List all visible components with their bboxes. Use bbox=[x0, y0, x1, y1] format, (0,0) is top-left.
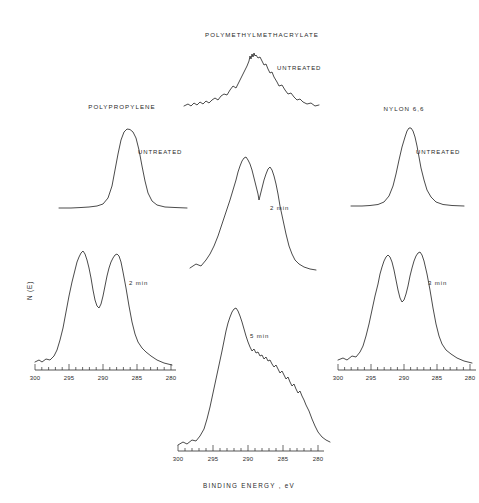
panel-pmma-2min: 2 min bbox=[188, 148, 318, 273]
x-tick-label-290-pp: 290 bbox=[98, 375, 109, 381]
trace-pmma-5min bbox=[178, 308, 330, 445]
x-tick-label-295-pmma: 295 bbox=[208, 456, 219, 462]
panel-pmma-untreated: UNTREATED bbox=[182, 50, 322, 112]
column-title-polypropylene: POLYPROPYLENE bbox=[88, 103, 156, 110]
xps-spectra-figure: POLYMETHYLMETHACRYLATE POLYPROPYLENE NYL… bbox=[0, 0, 479, 503]
x-tick-label-300-nylon: 300 bbox=[333, 375, 344, 381]
trace-polypropylene-2min bbox=[35, 251, 172, 365]
x-tick-label-280-pmma: 280 bbox=[313, 456, 324, 462]
x-tick-label-295-pp: 295 bbox=[64, 375, 75, 381]
x-tick-label-300-pp: 300 bbox=[30, 375, 41, 381]
x-tick-label-285-pp: 285 bbox=[132, 375, 143, 381]
trace-nylon66-untreated bbox=[351, 128, 464, 206]
x-tick-label-280-nylon: 280 bbox=[465, 375, 476, 381]
x-tick-label-295-nylon: 295 bbox=[366, 375, 377, 381]
column-title-polymethylmethacrylate: POLYMETHYLMETHACRYLATE bbox=[205, 31, 319, 38]
annotation-untreated-pmma: UNTREATED bbox=[277, 65, 321, 71]
column-title-nylon66: NYLON 6,6 bbox=[383, 105, 424, 112]
x-axis-ticks-nylon bbox=[338, 364, 470, 370]
panel-nylon66-untreated: UNTREATED bbox=[348, 120, 473, 215]
annotation-untreated-polypropylene: UNTREATED bbox=[138, 149, 182, 155]
x-axis-ticks-polypropylene bbox=[35, 364, 171, 370]
annotation-2min-pmma: 2 min bbox=[270, 205, 289, 211]
x-axis-ticks-pmma bbox=[178, 445, 318, 451]
annotation-2min-polypropylene: 2 min bbox=[129, 280, 148, 286]
trace-pmma-2min bbox=[190, 157, 316, 270]
trace-nylon66-3min bbox=[338, 252, 472, 363]
annotation-3min-nylon66: 3 min bbox=[428, 280, 447, 286]
panel-nylon66-3min: 300 295 290 285 280 3 min bbox=[334, 240, 479, 385]
x-axis-label: BINDING ENERGY , eV bbox=[203, 482, 295, 489]
panel-polypropylene-untreated: UNTREATED bbox=[55, 118, 190, 216]
annotation-untreated-nylon66: UNTREATED bbox=[416, 149, 460, 155]
panel-pmma-5min: 300 295 290 285 280 5 min bbox=[172, 295, 332, 475]
trace-polypropylene-untreated bbox=[59, 129, 187, 208]
x-tick-label-285-pmma: 285 bbox=[278, 456, 289, 462]
x-tick-label-300-pmma: 300 bbox=[173, 456, 184, 462]
panel-polypropylene-2min: 300 295 290 285 280 2 min bbox=[30, 240, 180, 385]
trace-pmma-untreated bbox=[184, 53, 319, 106]
x-tick-label-290-pmma: 290 bbox=[243, 456, 254, 462]
x-tick-label-290-nylon: 290 bbox=[399, 375, 410, 381]
annotation-5min-pmma: 5 min bbox=[250, 333, 269, 339]
x-tick-label-285-nylon: 285 bbox=[432, 375, 443, 381]
